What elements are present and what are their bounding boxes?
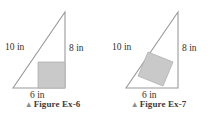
figure-ex-7-panel: 10 in 8 in 6 in ▲Figure Ex-7 (106, 0, 211, 115)
caption-triangle-marker-icon: ▲ (131, 100, 139, 109)
label-hypotenuse-ex-6: 10 in (5, 42, 25, 52)
caption-label-ex-7: Figure Ex-7 (140, 99, 187, 109)
caption-triangle-marker-icon: ▲ (25, 100, 33, 109)
label-vertical-leg-ex-6: 8 in (69, 43, 84, 53)
figure-ex-7-caption: ▲Figure Ex-7 (106, 99, 211, 109)
caption-label-ex-6: Figure Ex-6 (34, 99, 81, 109)
shaded-tilted-square-ex-7 (138, 52, 173, 86)
label-vertical-leg-ex-7: 8 in (182, 43, 197, 53)
figure-ex-6-panel: 10 in 8 in 6 in ▲Figure Ex-6 (0, 0, 105, 115)
figure-ex-6-caption: ▲Figure Ex-6 (0, 99, 105, 109)
label-hypotenuse-ex-7: 10 in (112, 42, 132, 52)
figure-ex-7-drawing: 10 in 8 in 6 in (106, 0, 211, 100)
figure-pair-container: 10 in 8 in 6 in ▲Figure Ex-6 10 in 8 in … (0, 0, 211, 115)
figure-ex-6-drawing: 10 in 8 in 6 in (0, 0, 105, 100)
shaded-rectangle-ex-6 (38, 62, 65, 88)
